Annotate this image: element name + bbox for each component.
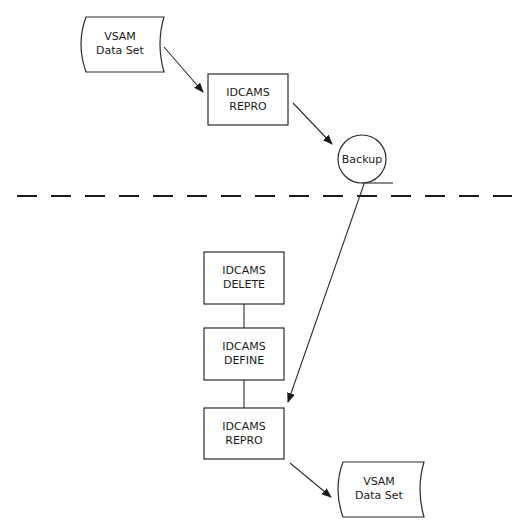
idcams-repro-top: IDCAMS REPRO [208,74,288,125]
arrow-vsam-to-repro [164,47,203,92]
vsam-top-line1: VSAM [104,30,136,43]
idcams-define: IDCAMS DEFINE [204,328,284,380]
idcams-repro-bottom: IDCAMS REPRO [204,408,284,459]
backup-tape: Backup [338,135,393,183]
backup-label: Backup [342,153,382,166]
vsam-data-set-top: VSAM Data Set [81,17,164,72]
vsam-bottom-line2: Data Set [355,489,404,502]
arrow-repro-to-vsam [290,463,331,497]
arrow-repro-to-backup [293,103,332,144]
define-line2: DEFINE [224,354,264,367]
repro-bottom-line1: IDCAMS [222,420,265,433]
define-line1: IDCAMS [222,340,265,353]
vsam-backup-restore-diagram: VSAM Data Set IDCAMS REPRO Backup IDCAMS… [0,0,524,531]
delete-line2: DELETE [223,278,265,291]
vsam-top-line2: Data Set [96,44,145,57]
arrow-backup-to-repro [288,184,364,402]
delete-line1: IDCAMS [222,264,265,277]
idcams-delete: IDCAMS DELETE [204,252,284,304]
repro-top-line2: REPRO [229,100,267,113]
repro-bottom-line2: REPRO [225,434,263,447]
vsam-data-set-bottom: VSAM Data Set [338,462,424,517]
repro-top-line1: IDCAMS [226,86,269,99]
vsam-bottom-line1: VSAM [363,475,395,488]
